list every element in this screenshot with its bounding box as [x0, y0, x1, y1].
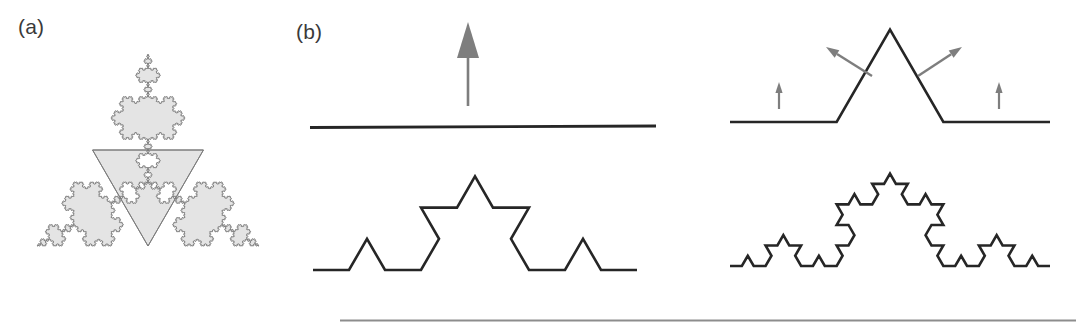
initiator-line — [310, 126, 656, 128]
generator-arrow-left-up — [775, 82, 782, 109]
generator-arrow-up-left — [826, 47, 872, 76]
figure-canvas — [0, 0, 1082, 333]
koch-initiator-line — [310, 126, 656, 128]
koch-curve-iteration-2 — [313, 176, 637, 270]
generator-arrow-right-up — [995, 82, 1002, 109]
initiator-displacement-arrow-up — [457, 22, 479, 106]
koch-n2-curve — [313, 176, 637, 270]
koch-curve-iteration-3 — [730, 174, 1050, 266]
koch-snowflake — [37, 54, 259, 246]
displacement-arrows — [457, 22, 1003, 109]
figure-root: (a) (b) — [0, 0, 1082, 333]
koch-n3-curve — [730, 174, 1050, 266]
generator-arrow-up-right — [918, 47, 962, 76]
